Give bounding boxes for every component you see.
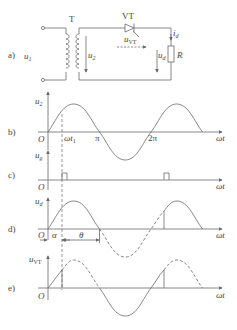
- panel-label-a: a): [8, 50, 15, 60]
- origin-label-d: O: [38, 230, 45, 240]
- gate-pulse-1: [62, 173, 67, 180]
- theta-label: θ: [79, 230, 84, 240]
- uvt-dashed-2: [164, 260, 203, 288]
- primary-terminal-top: [41, 26, 44, 29]
- panel-d-ud: [38, 198, 222, 257]
- origin-label-e: O: [38, 291, 45, 301]
- x-axis-label-d: ωt: [216, 230, 225, 240]
- thyristor-rectifier-diagram: a) u1 T u2 VT uVT ud id R b) u2 O ωt1 π …: [0, 0, 237, 330]
- x-axis-label-b: ωt: [216, 133, 225, 143]
- ud-solid-2: [164, 201, 203, 229]
- resistor-label: R: [176, 50, 183, 60]
- x-axis-label-e: ωt: [216, 290, 225, 300]
- alpha-label: α: [52, 230, 57, 240]
- x-axis-label-c: ωt: [216, 181, 225, 191]
- uvt-solid-neg: [100, 270, 165, 316]
- ud-label: ud: [158, 50, 167, 61]
- uvt-solid-1: [48, 270, 62, 288]
- panel-b-u2: [38, 92, 222, 160]
- uvt-axis-label: uVT: [29, 254, 42, 265]
- panel-e-uvt: [38, 256, 222, 316]
- tick-2pi: 2π: [148, 133, 158, 143]
- u2-label: u2: [88, 50, 96, 61]
- uvt-dashed-1: [62, 260, 100, 288]
- primary-terminal-bottom: [41, 78, 44, 81]
- ud-dashed: [100, 211, 165, 257]
- origin-label-b: O: [38, 134, 45, 144]
- uvt-label: uVT: [124, 34, 137, 45]
- secondary-coil: [76, 34, 79, 68]
- panel-label-e: e): [8, 283, 15, 293]
- id-label: id: [173, 28, 180, 39]
- panel-label-d: d): [8, 224, 16, 234]
- circuit-panel: [41, 24, 174, 82]
- primary-coil: [66, 34, 69, 68]
- resistor-symbol: [168, 46, 174, 62]
- u2-axis-label: u2: [35, 96, 43, 107]
- ud-solid-1: [48, 201, 100, 229]
- u1-label: u1: [24, 51, 32, 62]
- ug-axis-label: ug: [35, 150, 43, 161]
- tick-wt1: ωt1: [64, 133, 76, 144]
- origin-label-c: O: [38, 182, 45, 192]
- panel-c-ug: [38, 151, 222, 190]
- transformer-label: T: [69, 14, 75, 24]
- panel-label-b: b): [8, 127, 16, 137]
- panel-label-c: c): [8, 170, 15, 180]
- tick-pi: π: [95, 133, 100, 143]
- thyristor-label: VT: [122, 11, 134, 21]
- ud-axis-label: ud: [35, 196, 44, 207]
- gate-pulse-2: [164, 173, 169, 180]
